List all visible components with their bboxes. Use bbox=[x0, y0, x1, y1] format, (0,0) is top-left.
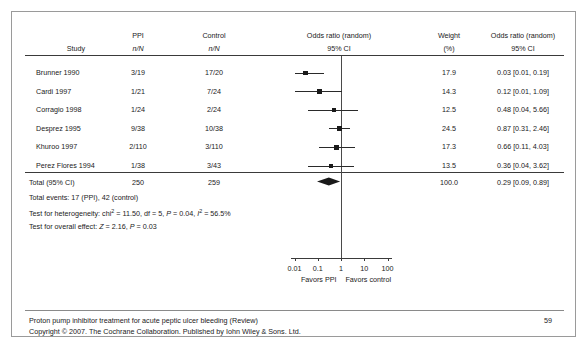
favors-left-label: Favors PPI bbox=[301, 275, 337, 284]
x-axis-tick bbox=[388, 258, 389, 261]
effect-estimate-marker bbox=[317, 89, 321, 93]
x-axis-tick-label: 0.1 bbox=[313, 264, 323, 273]
x-axis-tick bbox=[364, 258, 365, 261]
footer-rule bbox=[25, 310, 564, 311]
x-axis-tick bbox=[295, 258, 296, 261]
x-axis-tick-label: 10 bbox=[360, 264, 368, 273]
page-number: 59 bbox=[544, 316, 552, 325]
figure-page: PPI Control Odds ratio (random) Weight O… bbox=[11, 11, 576, 337]
favors-right-label: Favors control bbox=[345, 275, 391, 284]
x-axis-tick-label: 1 bbox=[339, 264, 343, 273]
effect-estimate-marker bbox=[334, 145, 339, 150]
confidence-interval-line bbox=[295, 73, 325, 74]
x-axis-tick-label: 100 bbox=[382, 264, 394, 273]
forest-plot: 0.010.1110100Favors PPIFavors control bbox=[12, 12, 575, 336]
effect-estimate-marker bbox=[303, 71, 308, 76]
effect-estimate-marker bbox=[329, 164, 333, 168]
figure-inner: PPI Control Odds ratio (random) Weight O… bbox=[12, 12, 575, 336]
effect-estimate-marker bbox=[337, 126, 342, 131]
null-effect-line bbox=[341, 56, 342, 258]
x-axis-tick bbox=[341, 258, 342, 261]
x-axis-tick-label: 0.01 bbox=[288, 264, 302, 273]
footer-title: Proton pump inhibitor treatment for acut… bbox=[29, 316, 258, 326]
effect-estimate-marker bbox=[332, 108, 336, 112]
footer-copyright: Copyright © 2007. The Cochrane Collabora… bbox=[29, 327, 301, 337]
summary-diamond bbox=[315, 176, 342, 187]
x-axis-tick bbox=[318, 258, 319, 261]
